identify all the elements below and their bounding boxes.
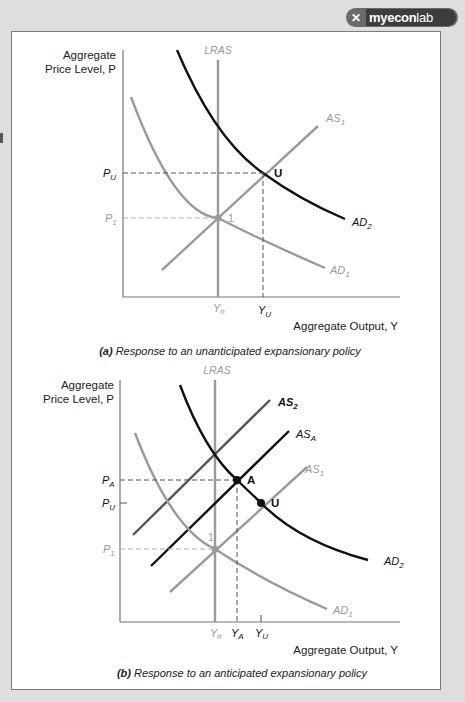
p1-tick-a: P1: [105, 212, 117, 227]
chart-b: Aggregate Price Level, P LRAS AS2 ASA AS…: [43, 364, 404, 679]
ya-tick-b: YA: [231, 627, 244, 641]
asa-label-b: ASA: [295, 428, 316, 443]
ad1-curve-b: [135, 433, 327, 609]
point-u-label-b: U: [271, 497, 279, 509]
point-1-label-b: 1: [208, 531, 214, 543]
as2-label-b: AS2: [277, 396, 298, 411]
pa-tick-b: PA: [102, 474, 115, 489]
pu-tick-a: PU: [103, 167, 116, 182]
point-a-b: [233, 476, 241, 484]
x-axis-label-b: Aggregate Output, Y: [293, 644, 398, 656]
ad-as-figure: .t { font-family: "Liberation Sans", san…: [0, 0, 465, 702]
p1-tick-b: P1: [103, 543, 115, 558]
lras-label-b: LRAS: [203, 364, 230, 376]
yu-tick-b: YU: [255, 627, 268, 641]
ad1-label-b: AD1: [332, 604, 353, 619]
yn-tick-b: Yn: [210, 627, 222, 641]
point-1-a: [215, 215, 222, 222]
point-1-label-a: 1: [228, 212, 234, 224]
y-axis-label-b-line2: Price Level, P: [43, 393, 114, 405]
y-axis-label-b-line1: Aggregate: [61, 379, 114, 391]
as1-label-b: AS1: [304, 463, 324, 478]
as1-curve-b: [170, 467, 307, 592]
ad1-curve-a: [131, 97, 325, 268]
ad2-curve-a: [177, 50, 345, 219]
caption-a: (a) Response to an unanticipated expansi…: [99, 345, 362, 357]
y-axis-label-a-line1: Aggregate: [63, 49, 116, 61]
ad2-label-b: AD2: [383, 555, 404, 570]
chart-a: Aggregate Price Level, P LRAS AS1 AD1 AD…: [45, 44, 400, 357]
point-a-label-b: A: [247, 474, 255, 486]
lras-label-a: LRAS: [204, 44, 231, 56]
as1-label-a: AS1: [325, 112, 345, 127]
point-1-b: [212, 546, 219, 553]
yn-tick-a: Yn: [213, 302, 225, 316]
point-u-b: [257, 499, 265, 507]
x-axis-label-a: Aggregate Output, Y: [293, 320, 398, 332]
as2-curve-b: [133, 400, 270, 535]
point-u-label-a: U: [274, 167, 282, 179]
yu-tick-a: YU: [258, 304, 271, 319]
ad2-label-a: AD2: [351, 216, 372, 231]
caption-b: (b) Response to an anticipated expansion…: [117, 667, 369, 679]
y-axis-label-a-line2: Price Level, P: [45, 63, 116, 75]
pu-tick-b: PU: [102, 497, 115, 512]
ad1-label-a: AD1: [329, 264, 350, 279]
